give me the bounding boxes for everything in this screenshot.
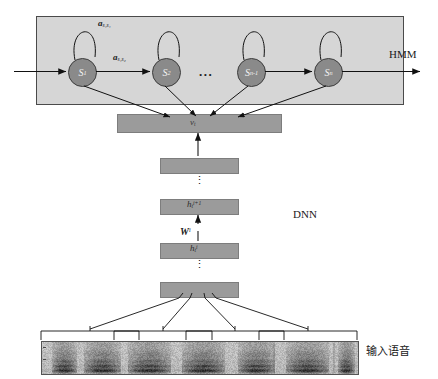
emission-arrow-s1	[84, 86, 170, 117]
emission-arrow-sn	[238, 86, 326, 117]
diagram-canvas: S1 S2 Sn-1 Sn ... as₁s₁ as₁s₂ HMM vt ⋮ h…	[0, 0, 438, 379]
frame-bracket-3	[186, 326, 284, 340]
fanout-line-4	[216, 298, 308, 329]
self-loop-sn	[320, 32, 341, 60]
fanout-line-2	[163, 298, 190, 329]
self-loop-s1	[74, 32, 95, 60]
frame-bracket-2	[114, 326, 212, 340]
self-loop-sn-1	[243, 32, 264, 60]
frame-group-brackets	[41, 326, 357, 340]
emission-arrow-s2	[165, 86, 196, 116]
frame-bracket-1	[41, 326, 139, 340]
connector-lines	[0, 0, 438, 379]
fanout-arrowheads	[179, 293, 216, 298]
self-loop-s2	[158, 32, 179, 60]
frame-bracket-4	[259, 326, 357, 340]
emission-arrow-sn-1	[210, 86, 248, 116]
fanout-line-1	[90, 298, 179, 329]
